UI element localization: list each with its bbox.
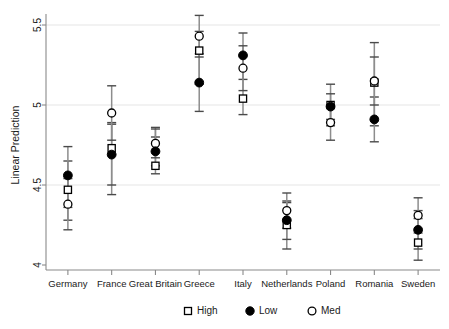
marker-high-great-britain xyxy=(152,162,159,169)
marker-med-france xyxy=(108,109,116,117)
marker-low-romania xyxy=(370,115,379,124)
y-tick-label-3: 5.5 xyxy=(32,18,43,32)
y-tick-label-1: 4.5 xyxy=(32,178,43,192)
marker-med-italy xyxy=(239,64,247,72)
marker-high-germany xyxy=(64,186,71,193)
linear-prediction-chart: 44.555.5Linear PredictionGermanyFranceGr… xyxy=(0,0,449,329)
marker-med-germany xyxy=(64,200,72,208)
data-group-netherlands xyxy=(282,193,291,249)
marker-low-poland xyxy=(326,102,335,111)
marker-med-greece xyxy=(195,32,203,40)
legend-label-med: Med xyxy=(321,305,340,316)
marker-low-netherlands xyxy=(282,216,291,225)
marker-med-sweden xyxy=(414,211,422,219)
x-tick-label-romania: Romania xyxy=(355,278,394,289)
marker-low-greece xyxy=(195,78,204,87)
x-tick-label-germany: Germany xyxy=(48,278,87,289)
data-group-germany xyxy=(63,147,72,230)
legend-marker-high xyxy=(185,308,192,315)
marker-med-great-britain xyxy=(151,139,159,147)
x-tick-label-italy: Italy xyxy=(234,278,252,289)
data-group-italy xyxy=(239,33,248,115)
x-tick-label-greece: Greece xyxy=(184,278,215,289)
y-tick-label-0: 4 xyxy=(32,262,43,268)
data-group-france xyxy=(107,86,116,195)
marker-med-netherlands xyxy=(283,207,291,215)
x-tick-label-poland: Poland xyxy=(316,278,346,289)
chart-canvas: 44.555.5Linear PredictionGermanyFranceGr… xyxy=(0,0,449,329)
y-axis-title: Linear Prediction xyxy=(9,105,21,184)
x-tick-label-great-britain: Great Britain xyxy=(129,278,182,289)
legend-label-low: Low xyxy=(259,305,278,316)
marker-med-romania xyxy=(370,77,378,85)
marker-med-poland xyxy=(327,119,335,127)
marker-high-italy xyxy=(239,95,246,102)
y-tick-label-2: 5 xyxy=(32,102,43,108)
legend-marker-low xyxy=(246,307,254,315)
marker-low-great-britain xyxy=(151,147,160,156)
data-group-sweden xyxy=(414,198,423,260)
x-tick-label-sweden: Sweden xyxy=(401,278,435,289)
x-tick-label-netherlands: Netherlands xyxy=(261,278,312,289)
x-tick-label-france: France xyxy=(97,278,127,289)
data-group-poland xyxy=(326,84,335,140)
legend-label-high: High xyxy=(197,305,218,316)
marker-high-greece xyxy=(196,47,203,54)
data-group-romania xyxy=(370,43,379,142)
data-group-great-britain xyxy=(151,127,160,173)
marker-low-sweden xyxy=(414,225,423,234)
legend-marker-med xyxy=(308,307,316,315)
marker-low-germany xyxy=(63,171,72,180)
marker-high-sweden xyxy=(415,239,422,246)
marker-low-italy xyxy=(239,51,248,60)
marker-low-france xyxy=(107,150,116,159)
data-group-greece xyxy=(195,15,204,111)
